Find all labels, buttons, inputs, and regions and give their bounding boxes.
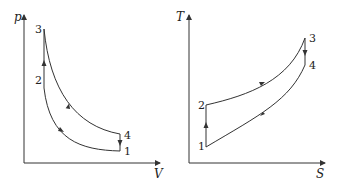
point-4-label: 4 (124, 129, 131, 142)
arrow-left-icon (58, 127, 64, 132)
thermodynamic-cycle-figure: p V 3 2 4 1 T S 1 2 (0, 0, 339, 184)
process-3-4 (44, 29, 120, 134)
p-axis-label: p (14, 10, 22, 24)
point-3-label: 3 (35, 23, 42, 36)
arrow-down-icon (118, 140, 123, 146)
process-2-3 (206, 38, 305, 105)
process-1-2 (44, 88, 120, 151)
point-2-label: 2 (35, 74, 42, 87)
point-4-label: 4 (309, 59, 316, 72)
s-axis-label: S (316, 167, 324, 181)
pv-diagram: p V 3 2 4 1 (14, 10, 164, 181)
v-axis-label: V (154, 167, 164, 181)
t-axis-label: T (176, 10, 185, 24)
point-3-label: 3 (309, 32, 316, 45)
point-2-label: 2 (198, 99, 205, 112)
process-4-1 (206, 65, 305, 147)
point-1-label: 1 (124, 145, 131, 158)
point-1-label: 1 (198, 140, 205, 153)
arrow-up-icon (42, 60, 47, 66)
arrow-up-icon (204, 122, 209, 128)
arrow-down-icon (303, 50, 308, 56)
ts-diagram: T S 1 2 3 4 (176, 10, 325, 181)
